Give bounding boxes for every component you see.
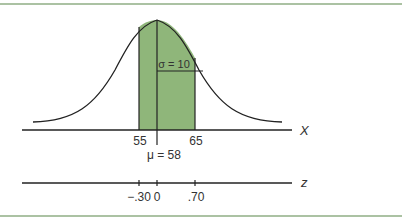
sigma-label: σ = 10 xyxy=(158,58,190,70)
z-axis-name: z xyxy=(300,175,308,190)
z-label-neg30: −.30 xyxy=(127,190,151,204)
x-label-55: 55 xyxy=(133,134,147,148)
x-label-65: 65 xyxy=(189,134,203,148)
shaded-area xyxy=(139,20,195,130)
mean-label: μ = 58 xyxy=(147,148,181,162)
z-label-0: 0 xyxy=(154,190,161,204)
normal-distribution-figure: σ = 10 55 65 μ = 58 X −.30 0 .70 z xyxy=(0,0,402,223)
figure-canvas: σ = 10 55 65 μ = 58 X −.30 0 .70 z xyxy=(0,0,402,223)
z-label-70: .70 xyxy=(188,190,205,204)
x-axis-name: X xyxy=(299,123,310,138)
